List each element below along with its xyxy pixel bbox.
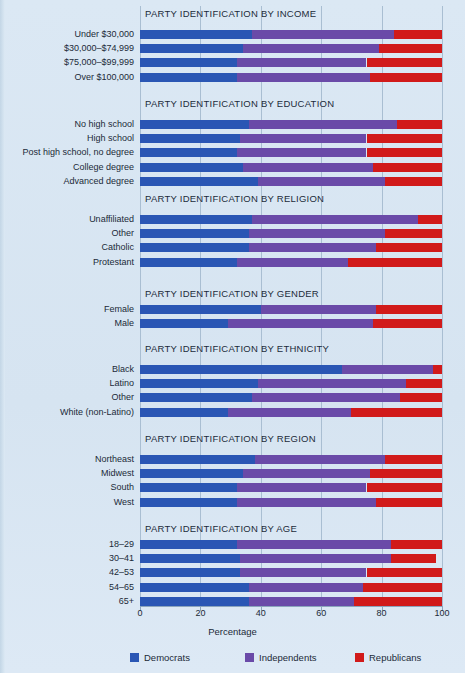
row-label: Male xyxy=(0,319,134,328)
axis-tick-label-0: 0 xyxy=(120,608,160,618)
axis-tick-label-80: 80 xyxy=(362,608,402,618)
bar-segment-democrats xyxy=(140,30,252,39)
bar-segment-independents xyxy=(249,229,385,238)
legend-swatch-icon xyxy=(245,653,254,662)
bar-segment-independents xyxy=(240,554,391,563)
table-row xyxy=(140,44,442,53)
bar-segment-independents xyxy=(249,597,355,606)
row-label: Other xyxy=(0,229,134,238)
legend-label: Democrats xyxy=(144,652,190,663)
panel-title-0: PARTY IDENTIFICATION BY INCOME xyxy=(145,8,316,19)
legend-item-republicans: Republicans xyxy=(355,648,421,664)
legend-item-independents: Independents xyxy=(245,648,317,664)
bar-segment-republicans xyxy=(373,319,442,328)
panel-title-5: PARTY IDENTIFICATION BY REGION xyxy=(145,433,316,444)
row-label: Other xyxy=(0,393,134,402)
row-label: 30–41 xyxy=(0,554,134,563)
table-row xyxy=(140,597,442,606)
row-label: White (non-Latino) xyxy=(0,408,134,417)
row-label: $75,000–$99,999 xyxy=(0,58,134,67)
table-row xyxy=(140,408,442,417)
bar-segment-independents xyxy=(252,215,418,224)
row-label: South xyxy=(0,483,134,492)
bar-segment-independents xyxy=(249,243,376,252)
bar-segment-independents xyxy=(237,148,367,157)
axis-tick-label-20: 20 xyxy=(180,608,220,618)
axis-tick-label-60: 60 xyxy=(301,608,341,618)
row-label: 18–29 xyxy=(0,540,134,549)
bar-segment-democrats xyxy=(140,498,237,507)
bar-segment-republicans xyxy=(370,469,442,478)
bar-segment-republicans xyxy=(376,498,442,507)
table-row xyxy=(140,229,442,238)
table-row xyxy=(140,483,442,492)
row-label: College degree xyxy=(0,163,134,172)
bar-segment-independents xyxy=(258,379,406,388)
party-identification-chart: 020406080100 Percentage DemocratsIndepen… xyxy=(0,0,465,673)
legend: DemocratsIndependentsRepublicans xyxy=(0,648,465,668)
bar-segment-republicans xyxy=(367,58,443,67)
row-label: Catholic xyxy=(0,243,134,252)
row-label: Black xyxy=(0,365,134,374)
table-row xyxy=(140,30,442,39)
bar-segment-republicans xyxy=(351,408,442,417)
table-row xyxy=(140,540,442,549)
bar-segment-republicans xyxy=(391,540,442,549)
bar-segment-independents xyxy=(252,30,394,39)
table-row xyxy=(140,305,442,314)
row-label: No high school xyxy=(0,120,134,129)
x-axis-line xyxy=(140,606,442,607)
bar-segment-independents xyxy=(237,58,367,67)
bar-segment-independents xyxy=(228,319,373,328)
table-row xyxy=(140,134,442,143)
bar-segment-independents xyxy=(237,73,370,82)
bar-segment-republicans xyxy=(348,258,442,267)
bar-segment-democrats xyxy=(140,483,237,492)
bar-segment-independents xyxy=(237,483,367,492)
bar-segment-independents xyxy=(240,568,367,577)
row-label: 65+ xyxy=(0,597,134,606)
row-label: Northeast xyxy=(0,455,134,464)
bar-segment-republicans xyxy=(367,568,443,577)
bar-segment-democrats xyxy=(140,215,252,224)
bar-segment-democrats xyxy=(140,568,240,577)
bar-segment-republicans xyxy=(363,583,442,592)
table-row xyxy=(140,469,442,478)
bar-segment-democrats xyxy=(140,379,258,388)
table-row xyxy=(140,365,442,374)
row-label: High school xyxy=(0,134,134,143)
bar-segment-republicans xyxy=(394,30,442,39)
bar-segment-democrats xyxy=(140,120,249,129)
legend-swatch-icon xyxy=(355,653,364,662)
table-row xyxy=(140,498,442,507)
axis-tick-label-100: 100 xyxy=(422,608,462,618)
bar-segment-independents xyxy=(228,408,352,417)
table-row xyxy=(140,554,442,563)
bar-segment-republicans xyxy=(385,229,442,238)
bar-segment-democrats xyxy=(140,319,228,328)
bar-segment-independents xyxy=(243,469,370,478)
bar-segment-independents xyxy=(243,44,379,53)
table-row xyxy=(140,455,442,464)
bar-segment-democrats xyxy=(140,469,243,478)
axis-tick-label-40: 40 xyxy=(241,608,281,618)
bar-segment-republicans xyxy=(376,243,442,252)
bar-segment-democrats xyxy=(140,73,237,82)
table-row xyxy=(140,58,442,67)
bar-segment-republicans xyxy=(400,393,442,402)
bar-segment-republicans xyxy=(379,44,442,53)
panel-title-1: PARTY IDENTIFICATION BY EDUCATION xyxy=(145,98,334,109)
bar-segment-democrats xyxy=(140,583,249,592)
bar-segment-democrats xyxy=(140,554,240,563)
bar-segment-democrats xyxy=(140,305,261,314)
bar-segment-independents xyxy=(261,305,376,314)
table-row xyxy=(140,258,442,267)
table-row xyxy=(140,568,442,577)
bar-segment-democrats xyxy=(140,44,243,53)
bar-segment-independents xyxy=(249,120,397,129)
bar-segment-democrats xyxy=(140,365,342,374)
bar-segment-republicans xyxy=(385,455,442,464)
bar-segment-republicans xyxy=(373,163,442,172)
table-row xyxy=(140,319,442,328)
bar-segment-republicans xyxy=(391,554,436,563)
